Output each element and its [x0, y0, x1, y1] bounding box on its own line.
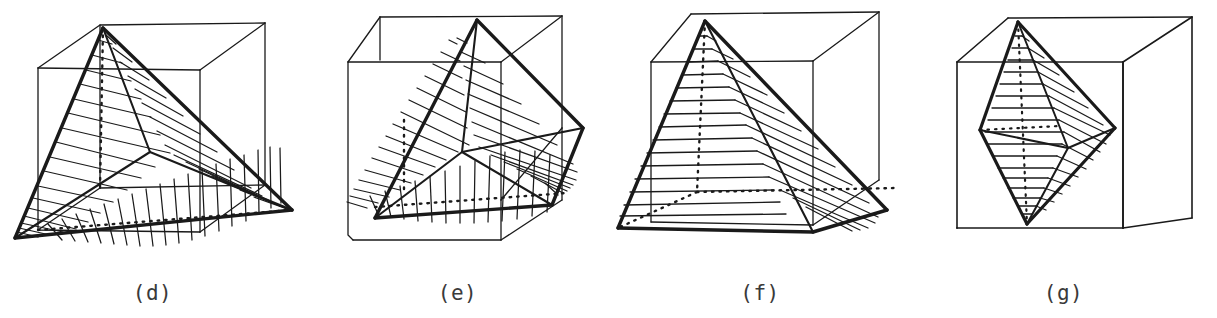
figure-caption-f: (f): [610, 283, 910, 304]
figure-panel-d: (d): [0, 0, 305, 318]
cube-wireframe-g: [957, 17, 1192, 228]
figure-panel-e: (e): [305, 0, 610, 318]
cube-wireframe-f: [651, 12, 879, 225]
figure-d-drawing: [0, 0, 305, 270]
hidden-edges-g: [980, 22, 1060, 224]
pyramid-inner-edges-f: [705, 21, 813, 232]
figure-panel-g: (g): [910, 0, 1217, 318]
figure-g-drawing: [910, 0, 1217, 270]
bipyramid-edges-g: [980, 22, 1115, 224]
hatching-left-face-e: [347, 40, 469, 208]
hatching-right-face-d: [106, 35, 287, 209]
figure-caption-g: (g): [910, 283, 1217, 304]
figure-caption-e: (e): [305, 283, 610, 304]
figure-caption-d: (d): [0, 283, 305, 304]
figure-panel-f: (f): [610, 0, 910, 318]
hatching-left-face-f: [620, 36, 786, 216]
figure-f-drawing: [610, 0, 910, 270]
pyramid-inner-edges-e: [375, 20, 583, 218]
hatching-right-face-f: [707, 36, 878, 231]
pyramid-edges-e: [375, 20, 583, 218]
figure-e-drawing: [305, 0, 610, 270]
figure-sheet: (d): [0, 0, 1217, 318]
